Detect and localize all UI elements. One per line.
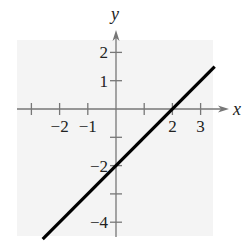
x-tick-label: −2 [51,117,69,136]
line-graph: −2−12321−2−4 x y [0,0,250,246]
y-tick-label: −4 [90,213,109,232]
x-tick-label: 2 [168,117,177,136]
y-tick-label: 2 [100,43,109,62]
y-tick-label: 1 [100,72,109,91]
plot-background [17,40,213,236]
y-axis-label: y [109,4,119,24]
x-tick-label: −1 [79,117,97,136]
y-tick-label: −2 [90,157,108,176]
x-tick-label: 3 [196,117,205,136]
x-axis-label: x [232,99,241,119]
